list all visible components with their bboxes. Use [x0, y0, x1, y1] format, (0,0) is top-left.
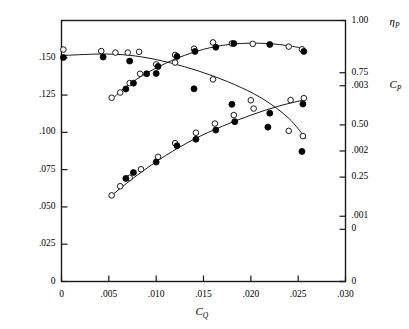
right-top-axis-title: ηP	[390, 16, 400, 30]
filled-circle-marker	[299, 148, 305, 154]
filled-circle-marker	[267, 42, 273, 48]
open-circle-marker	[113, 50, 119, 56]
filled-circle-marker	[213, 127, 219, 133]
filled-circle-marker	[127, 58, 133, 64]
filled-circle-marker	[100, 54, 106, 60]
filled-circle-marker	[123, 86, 129, 92]
open-circle-marker	[117, 90, 123, 96]
fitted-curve-line	[112, 99, 306, 195]
filled-circle-marker	[191, 86, 197, 92]
axis-title-base: C	[196, 305, 203, 317]
open-circle-marker	[286, 128, 292, 134]
x-axis-tick-label: .005	[89, 290, 129, 300]
right-top-axis-tick-label: 0.75	[352, 68, 369, 78]
data-markers	[60, 40, 306, 199]
filled-circle-marker	[174, 143, 180, 149]
right-bottom-axis-tick-label: .002	[352, 146, 369, 156]
filled-circle-marker	[174, 53, 180, 59]
right-bottom-axis-tick-label: .001	[352, 211, 369, 221]
axis-title-subscript: P	[395, 21, 400, 30]
left-axis-tick-label: .025	[18, 239, 56, 249]
chart-canvas	[0, 0, 409, 329]
figure-container: 0.025.050.075.100.125.150 1.000.750.500.…	[0, 0, 409, 329]
open-circle-marker	[231, 112, 237, 118]
filled-circle-marker	[267, 110, 273, 116]
right-bottom-axis-tick-label: 0	[352, 277, 357, 287]
x-axis-tick-label: .020	[231, 290, 271, 300]
open-circle-marker	[138, 166, 144, 172]
filled-circle-marker	[300, 101, 306, 107]
filled-circle-marker	[155, 63, 161, 69]
open-circle-marker	[288, 97, 294, 103]
right-top-axis-tick-label: 0.25	[352, 172, 369, 182]
filled-circle-marker	[153, 70, 159, 76]
open-circle-marker	[98, 48, 104, 54]
axis-title-base: C	[390, 78, 397, 90]
open-circle-marker	[286, 44, 292, 50]
filled-circle-marker	[301, 48, 307, 54]
filled-circle-marker	[153, 159, 159, 165]
right-top-axis-tick-label: 1.00	[352, 16, 369, 26]
open-circle-marker	[137, 71, 143, 77]
open-circle-marker	[193, 130, 199, 136]
fitted-curves	[62, 43, 306, 195]
filled-circle-marker	[130, 170, 136, 176]
left-axis-tick-label: .150	[18, 53, 56, 63]
axis-title-subscript: Q	[203, 311, 208, 320]
open-circle-marker	[136, 49, 142, 55]
open-circle-marker	[210, 77, 216, 83]
open-circle-marker	[250, 41, 256, 47]
filled-circle-marker	[231, 40, 237, 46]
open-circle-marker	[117, 183, 123, 189]
filled-circle-marker	[144, 71, 150, 77]
filled-circle-marker	[229, 101, 235, 107]
filled-circle-marker	[192, 48, 198, 54]
left-axis-tick-label: .075	[18, 165, 56, 175]
left-axis-tick-label: 0	[18, 277, 56, 287]
filled-circle-marker	[213, 44, 219, 50]
open-circle-marker	[61, 47, 67, 53]
right-bottom-axis-title: CP	[390, 79, 402, 93]
left-axis-tick-label: .050	[18, 202, 56, 212]
open-circle-marker	[301, 95, 307, 101]
x-axis-tick-label: 0	[42, 290, 82, 300]
x-axis-tick-label: .025	[278, 290, 318, 300]
open-circle-marker	[248, 97, 254, 103]
x-axis-tick-label: .015	[184, 290, 224, 300]
filled-circle-marker	[193, 136, 199, 142]
open-circle-marker	[109, 193, 115, 199]
x-axis-tick-label: .010	[136, 290, 176, 300]
x-axis-tick-label: .030	[326, 290, 366, 300]
filled-circle-marker	[60, 54, 66, 60]
open-circle-marker	[125, 50, 131, 56]
right-top-axis-tick-label: 0	[352, 224, 357, 234]
open-circle-marker	[109, 95, 115, 101]
filled-circle-marker	[232, 119, 238, 125]
right-bottom-axis-tick-label: .003	[352, 81, 369, 91]
right-top-axis-tick-label: 0.50	[352, 120, 369, 130]
filled-circle-marker	[265, 124, 271, 130]
filled-circle-marker	[130, 80, 136, 86]
filled-circle-marker	[123, 175, 129, 181]
open-circle-marker	[251, 106, 257, 112]
open-circle-marker	[212, 121, 218, 127]
left-axis-tick-label: .125	[18, 90, 56, 100]
open-circle-marker	[300, 133, 306, 139]
axis-title-subscript: P	[397, 84, 402, 93]
open-circle-marker	[172, 60, 178, 66]
x-axis-title: CQ	[196, 306, 209, 320]
left-axis-tick-label: .100	[18, 127, 56, 137]
